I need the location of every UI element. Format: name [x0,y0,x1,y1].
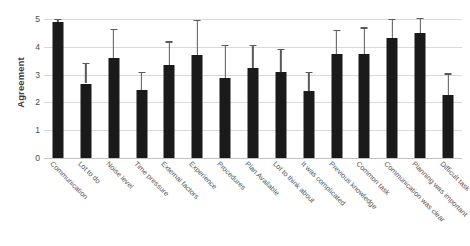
bar-group [406,19,434,158]
bar [80,84,91,159]
x-axis-tick-labels: CommunicationLot to doNoise levelTime pr… [44,160,462,246]
x-axis-tick-label: Lot to do [77,160,102,185]
bar-group [434,19,462,158]
error-bar [166,41,173,65]
bar-group [378,19,406,158]
bar [52,22,63,158]
error-bar-cap-top [166,41,173,42]
x-axis-tick-label: Previous knowledge [328,160,379,211]
y-axis-tick-label: 1 [26,126,40,135]
bar-chart: Agreement 012345 CommunicationLot to doN… [0,0,470,246]
error-bar-cap-top [445,73,452,74]
error-bar [194,20,201,55]
error-bar-line [224,45,225,78]
error-bar-line [197,20,198,55]
bar-group [155,19,183,158]
y-axis-tick-label: 3 [26,70,40,79]
error-bar [305,72,312,91]
bar [247,68,258,158]
bar [303,91,314,158]
bar [108,58,119,158]
error-bar [249,45,256,69]
y-axis-tick-label: 0 [26,154,40,163]
y-axis-tick-label: 2 [26,98,40,107]
error-bar-cap-top [194,20,201,21]
y-axis-tick-label: 4 [26,43,40,52]
error-bar-line [113,29,114,58]
bar-group [183,19,211,158]
error-bar-line [85,63,86,84]
gridline [44,158,462,159]
error-bar-cap-top [138,72,145,73]
error-bar [417,18,424,33]
error-bar-cap-top [305,72,312,73]
error-bar-cap-top [417,18,424,19]
error-bar [361,27,368,53]
bar-group [323,19,351,158]
error-bar-cap-top [82,63,89,64]
error-bar-line [420,18,421,33]
error-bar-cap-top [389,19,396,20]
y-axis-tick-labels: 012345 [26,0,40,165]
error-bar [110,29,117,58]
y-axis-tick-label: 5 [26,15,40,24]
bars-layer [44,19,462,158]
bar [359,54,370,158]
error-bar-cap-top [249,45,256,46]
error-bar-line [169,41,170,65]
bar-group [100,19,128,158]
error-bar [54,19,61,22]
bar [192,55,203,158]
bar-group [211,19,239,158]
error-bar-cap-top [54,19,61,20]
error-bar-line [364,27,365,53]
bar-group [72,19,100,158]
error-bar-cap-top [277,49,284,50]
bar [136,90,147,158]
error-bar [333,30,340,54]
error-bar [277,49,284,73]
error-bar [445,73,452,95]
error-bar [138,72,145,90]
error-bar-line [336,30,337,54]
bar [220,78,231,158]
error-bar [389,19,396,38]
bar [387,38,398,158]
bar [164,65,175,158]
bar-group [267,19,295,158]
bar [275,72,286,158]
y-axis-title-text: Agreement [15,57,26,108]
bar [331,54,342,158]
bar-group [351,19,379,158]
plot-area [44,19,462,158]
bar [443,95,454,158]
x-axis-tick-label: Noise level [105,160,135,190]
error-bar [82,63,89,84]
error-bar-cap-top [222,45,229,46]
bar-group [128,19,156,158]
error-bar-cap-top [333,30,340,31]
x-axis-tick-label: Planning was important [411,160,469,218]
bar [415,33,426,158]
error-bar-line [392,19,393,38]
bar-group [239,19,267,158]
error-bar-cap-top [361,27,368,28]
error-bar-line [141,72,142,90]
error-bar [222,45,229,78]
error-bar-line [308,72,309,91]
error-bar-cap-top [110,29,117,30]
error-bar-line [280,49,281,73]
bar-group [44,19,72,158]
error-bar-line [447,73,448,95]
bar-group [295,19,323,158]
error-bar-line [252,45,253,69]
